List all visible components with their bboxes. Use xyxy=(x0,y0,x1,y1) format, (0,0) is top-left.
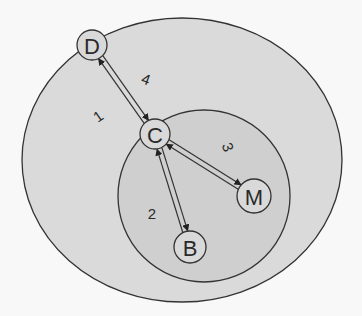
node-D: D xyxy=(77,30,107,60)
node-label: M xyxy=(245,185,263,210)
node-label: B xyxy=(183,236,198,261)
node-label: D xyxy=(84,34,100,59)
node-M: M xyxy=(237,179,271,213)
diagram-canvas: 1423 DCMB xyxy=(0,0,362,316)
node-label: C xyxy=(147,123,163,148)
node-B: B xyxy=(174,231,206,263)
node-C: C xyxy=(140,119,170,149)
edge-label-2: 2 xyxy=(148,205,156,222)
